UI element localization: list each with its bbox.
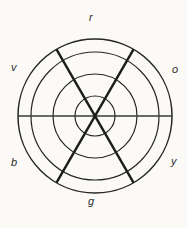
hue-label-green: g [88,196,94,207]
hue-label-red: r [89,12,93,23]
hue-label-orange: o [172,64,178,75]
hue-label-yellow: y [171,156,177,167]
color-wheel-graphic [0,0,187,228]
color-wheel-diagram: r o y g b v [0,0,187,228]
hue-label-violet: v [11,62,17,73]
hue-label-blue: b [11,157,17,168]
